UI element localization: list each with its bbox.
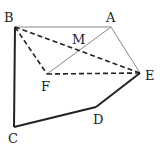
point-label-A: A — [105, 10, 116, 25]
segment-AE — [111, 27, 140, 73]
segment-DE — [96, 73, 140, 107]
point-label-M: M — [72, 32, 85, 47]
segment-CD — [14, 107, 96, 127]
point-label-B: B — [4, 10, 14, 25]
geometry-diagram: BAMFEDC — [0, 0, 166, 148]
segment-BC — [14, 27, 15, 127]
segment-BF — [15, 27, 47, 74]
point-label-C: C — [8, 131, 18, 146]
point-label-F: F — [41, 79, 50, 94]
segment-FE — [47, 73, 140, 74]
point-label-D: D — [93, 112, 103, 127]
point-label-E: E — [145, 68, 155, 83]
